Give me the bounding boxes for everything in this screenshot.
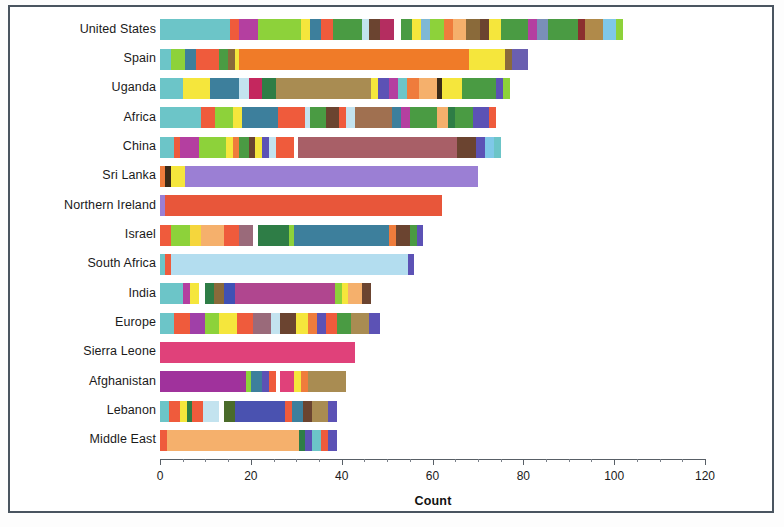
bar-segment[interactable] [192, 401, 203, 422]
bar-segment[interactable] [278, 107, 305, 128]
bar-segment[interactable] [378, 78, 389, 99]
bar-segment[interactable] [489, 19, 500, 40]
bar-segment[interactable] [239, 225, 253, 246]
bar-segment[interactable] [312, 430, 321, 451]
bar-segment[interactable] [337, 401, 346, 422]
bar-segment[interactable] [171, 254, 407, 275]
stacked-bar[interactable] [160, 254, 414, 275]
bar-segment[interactable] [485, 137, 494, 158]
bar-segment[interactable] [444, 19, 453, 40]
bar-segment[interactable] [190, 283, 199, 304]
bar-segment[interactable] [301, 19, 310, 40]
bar-segment[interactable] [296, 313, 307, 334]
stacked-bar[interactable] [160, 342, 355, 363]
bar-segment[interactable] [355, 107, 391, 128]
bar-segment[interactable] [496, 107, 505, 128]
bar-row[interactable] [160, 342, 705, 363]
bar-segment[interactable] [239, 78, 248, 99]
stacked-bar[interactable] [160, 195, 442, 216]
stacked-bar[interactable] [160, 49, 528, 70]
bar-segment[interactable] [362, 19, 369, 40]
bar-segment[interactable] [480, 19, 489, 40]
bar-segment[interactable] [448, 107, 455, 128]
bar-segment[interactable] [280, 371, 294, 392]
bar-segment[interactable] [262, 78, 276, 99]
bar-segment[interactable] [160, 371, 246, 392]
bar-segment[interactable] [407, 78, 418, 99]
bar-segment[interactable] [160, 401, 169, 422]
bar-segment[interactable] [269, 137, 276, 158]
stacked-bar[interactable] [160, 107, 505, 128]
bar-segment[interactable] [242, 107, 278, 128]
bar-segment[interactable] [505, 49, 512, 70]
bar-segment[interactable] [362, 283, 371, 304]
bar-segment[interactable] [371, 78, 378, 99]
bar-segment[interactable] [396, 225, 410, 246]
bar-segment[interactable] [585, 19, 603, 40]
bar-segment[interactable] [342, 283, 349, 304]
bar-segment[interactable] [453, 19, 467, 40]
bar-segment[interactable] [310, 107, 326, 128]
bar-segment[interactable] [408, 254, 415, 275]
bar-segment[interactable] [239, 137, 248, 158]
bar-segment[interactable] [190, 225, 201, 246]
bar-segment[interactable] [348, 283, 362, 304]
bar-segment[interactable] [233, 107, 242, 128]
bar-segment[interactable] [201, 107, 215, 128]
bar-segment[interactable] [185, 166, 478, 187]
bar-segment[interactable] [239, 19, 257, 40]
bar-segment[interactable] [160, 107, 201, 128]
bar-segment[interactable] [185, 49, 196, 70]
bar-segment[interactable] [380, 19, 394, 40]
bar-segment[interactable] [210, 78, 240, 99]
bar-segment[interactable] [226, 137, 233, 158]
bar-segment[interactable] [339, 107, 346, 128]
bar-row[interactable] [160, 19, 705, 40]
bar-segment[interactable] [321, 430, 328, 451]
bar-segment[interactable] [308, 371, 347, 392]
bar-segment[interactable] [512, 49, 528, 70]
bar-segment[interactable] [169, 401, 180, 422]
bar-segment[interactable] [317, 313, 326, 334]
bar-segment[interactable] [410, 107, 437, 128]
bar-segment[interactable] [285, 401, 292, 422]
bar-segment[interactable] [233, 137, 240, 158]
bar-segment[interactable] [171, 225, 189, 246]
bar-segment[interactable] [299, 430, 306, 451]
bar-segment[interactable] [160, 19, 230, 40]
stacked-bar[interactable] [160, 166, 478, 187]
bar-segment[interactable] [455, 107, 473, 128]
bar-segment[interactable] [269, 371, 276, 392]
bar-row[interactable] [160, 166, 705, 187]
stacked-bar[interactable] [160, 313, 373, 334]
bar-segment[interactable] [457, 137, 475, 158]
bar-segment[interactable] [167, 430, 299, 451]
bar-segment[interactable] [174, 137, 181, 158]
bar-segment[interactable] [255, 137, 262, 158]
stacked-bar[interactable] [160, 225, 423, 246]
bar-segment[interactable] [276, 78, 371, 99]
bar-segment[interactable] [337, 313, 351, 334]
bar-segment[interactable] [262, 371, 269, 392]
bar-row[interactable] [160, 195, 705, 216]
bar-segment[interactable] [237, 313, 253, 334]
bar-segment[interactable] [328, 430, 337, 451]
bar-segment[interactable] [171, 166, 185, 187]
bar-segment[interactable] [203, 401, 219, 422]
bar-segment[interactable] [249, 137, 256, 158]
bar-row[interactable] [160, 401, 705, 422]
bar-segment[interactable] [371, 283, 382, 304]
bar-segment[interactable] [496, 78, 503, 99]
bar-segment[interactable] [201, 225, 224, 246]
bar-segment[interactable] [160, 283, 183, 304]
bar-segment[interactable] [160, 225, 171, 246]
bar-segment[interactable] [335, 283, 342, 304]
bar-segment[interactable] [214, 283, 223, 304]
bar-segment[interactable] [160, 137, 174, 158]
bar-segment[interactable] [537, 19, 548, 40]
bar-segment[interactable] [205, 313, 219, 334]
bar-segment[interactable] [469, 49, 505, 70]
bar-segment[interactable] [369, 19, 380, 40]
bar-segment[interactable] [473, 107, 489, 128]
bar-segment[interactable] [239, 49, 468, 70]
